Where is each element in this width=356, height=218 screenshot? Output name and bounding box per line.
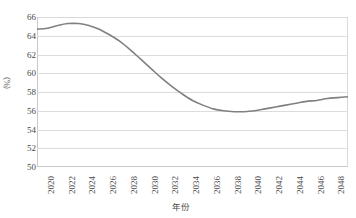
y-axis-tick: 66 bbox=[27, 13, 36, 22]
x-axis-tick: 2042 bbox=[274, 176, 284, 194]
x-axis-tick: 2044 bbox=[294, 176, 304, 194]
y-axis-tick: 52 bbox=[27, 144, 36, 153]
x-axis-tick: 2034 bbox=[191, 176, 201, 194]
y-axis-tick-labels: 666462605856545250 bbox=[10, 0, 36, 218]
x-axis-tick: 2028 bbox=[128, 176, 138, 194]
y-axis-tick: 54 bbox=[27, 125, 36, 134]
series-line-layer bbox=[37, 17, 348, 167]
y-axis-tick: 56 bbox=[27, 106, 36, 115]
plot-area bbox=[37, 17, 348, 167]
series-line-path bbox=[37, 23, 348, 111]
x-axis-tick: 2046 bbox=[315, 176, 325, 194]
y-axis-tick: 60 bbox=[27, 69, 36, 78]
x-axis-tick-labels: 2020202220242026202820302032203420362038… bbox=[37, 168, 348, 198]
x-axis-tick: 2022 bbox=[66, 176, 76, 194]
x-axis-tick: 2026 bbox=[108, 176, 118, 194]
x-axis-tick: 2032 bbox=[170, 176, 180, 194]
line-chart: （%） 666462605856545250 20202022202420262… bbox=[0, 0, 356, 218]
x-axis-tick: 2038 bbox=[232, 176, 242, 194]
x-axis-title-text: 年份 bbox=[172, 202, 190, 212]
y-axis-tick: 50 bbox=[27, 163, 36, 172]
x-axis-tick: 2020 bbox=[46, 176, 56, 194]
x-axis-tick: 2030 bbox=[149, 176, 159, 194]
y-axis-tick: 64 bbox=[27, 31, 36, 40]
x-axis-tick: 2036 bbox=[211, 176, 221, 194]
y-axis-tick: 62 bbox=[27, 50, 36, 59]
x-axis-tick: 2024 bbox=[87, 176, 97, 194]
x-axis-tick: 2048 bbox=[336, 176, 346, 194]
x-axis-tick: 2040 bbox=[253, 176, 263, 194]
x-axis-title: 年份 bbox=[0, 200, 356, 212]
y-axis-tick: 58 bbox=[27, 88, 36, 97]
